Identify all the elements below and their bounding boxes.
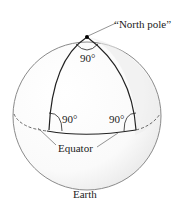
spherical-triangle-diagram: “North pole” 90° 90° 90° Equator Earth: [0, 0, 180, 206]
angle-top-label: 90°: [80, 52, 95, 64]
angle-left-label: 90°: [62, 113, 77, 125]
equator-label: Equator: [58, 142, 93, 154]
north-pole-leader: [88, 23, 116, 36]
earth-label: Earth: [73, 188, 97, 200]
angle-right-label: 90°: [109, 113, 124, 125]
north-pole-label: “North pole”: [114, 18, 171, 30]
